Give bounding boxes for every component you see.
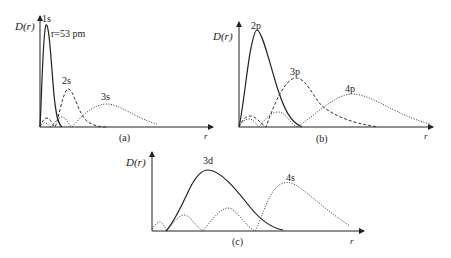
curve-label-4s: 4s xyxy=(286,172,295,183)
curve-label-2p: 2p xyxy=(251,20,261,31)
curve-1s xyxy=(40,25,62,127)
curve-label-2s: 2s xyxy=(62,75,71,86)
curve-2s xyxy=(40,89,106,127)
panel-c: D(r) r (c) 3d 4s xyxy=(125,152,364,248)
y-axis-label: D(r) xyxy=(125,156,146,169)
curve-label-1s: 1s xyxy=(42,13,51,24)
panel-caption: (b) xyxy=(316,133,328,145)
y-axis-label: D(r) xyxy=(212,30,233,43)
curve-4s xyxy=(152,183,350,231)
curve-label-3s: 3s xyxy=(101,91,110,102)
x-axis-label: r xyxy=(350,236,354,246)
curve-3p xyxy=(239,78,378,127)
annotation-bohr-radius: r=53 pm xyxy=(51,28,85,39)
curve-3d xyxy=(166,170,283,231)
y-axis-label: D(r) xyxy=(14,20,35,33)
x-axis-label: r xyxy=(424,131,428,141)
panel-caption: (c) xyxy=(232,236,243,248)
x-axis-label: r xyxy=(204,131,208,141)
curve-label-3p: 3p xyxy=(290,66,300,77)
curve-label-3d: 3d xyxy=(203,155,213,166)
panel-caption: (a) xyxy=(119,132,130,144)
radial-distribution-figure: D(r) r (a) 1s r=53 pm 2s 3s D(r) r (b) 2… xyxy=(0,0,451,258)
panel-a: D(r) r (a) 1s r=53 pm 2s 3s xyxy=(14,13,213,144)
panel-b: D(r) r (b) 2p 3p 4p xyxy=(212,20,433,145)
curve-label-4p: 4p xyxy=(345,83,355,94)
